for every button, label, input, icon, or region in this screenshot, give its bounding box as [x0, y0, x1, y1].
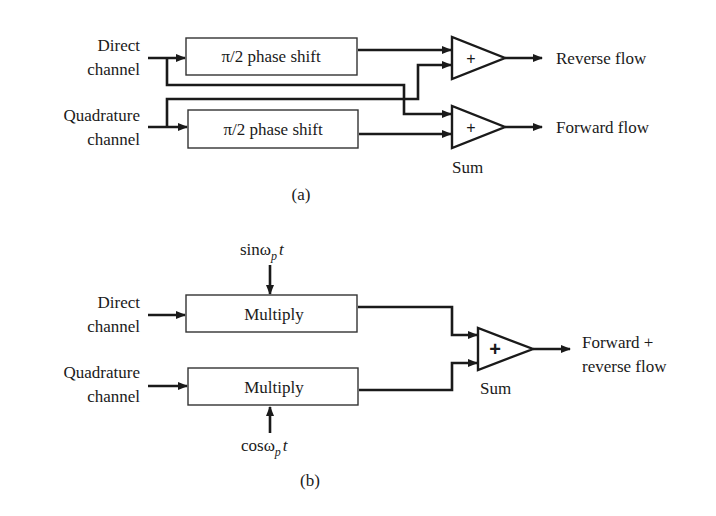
- direct-channel-label-line2: channel: [87, 60, 140, 79]
- reverse-summer-plus-sign: +: [466, 50, 475, 67]
- direct-channel-label-b-line1: Direct: [98, 293, 141, 312]
- direct-channel-label-b-line2: channel: [87, 317, 140, 336]
- reverse-flow-label: Reverse flow: [556, 49, 647, 68]
- sum-label-a: Sum: [452, 158, 483, 177]
- sum-label-b: Sum: [480, 379, 511, 398]
- diagram-a: Direct channel Quadrature channel π/2 ph…: [64, 36, 650, 204]
- phase-shift-block-bottom-label: π/2 phase shift: [223, 120, 323, 139]
- quadrature-channel-label-b-line1: Quadrature: [64, 363, 140, 382]
- output-label-line2: reverse flow: [582, 357, 667, 376]
- output-label-line1: Forward +: [582, 333, 653, 352]
- cos-reference-label: cosωpt: [241, 436, 289, 459]
- forward-summer-plus-sign: +: [466, 119, 475, 136]
- caption-a: (a): [292, 185, 311, 204]
- forward-flow-label: Forward flow: [556, 118, 650, 137]
- diagram-b: sinωpt Direct channel Quadrature channel…: [64, 240, 668, 490]
- quadrature-channel-label-line1: Quadrature: [64, 106, 140, 125]
- reverse-flow-summer: [452, 37, 505, 79]
- multiply-bottom-output-wire: [359, 363, 477, 390]
- forward-flow-summer: [452, 106, 505, 148]
- quadrature-channel-label-b-line2: channel: [87, 387, 140, 406]
- combined-summer-plus-sign: +: [489, 338, 501, 360]
- phase-shift-block-top-label: π/2 phase shift: [221, 47, 321, 66]
- multiply-top-output-wire: [358, 307, 477, 335]
- caption-b: (b): [300, 471, 320, 490]
- sin-reference-label: sinωpt: [240, 240, 285, 263]
- multiply-block-bottom-label: Multiply: [244, 378, 304, 397]
- direct-channel-label-line1: Direct: [98, 36, 141, 55]
- flow-diagram: Direct channel Quadrature channel π/2 ph…: [0, 0, 716, 516]
- multiply-block-top-label: Multiply: [244, 305, 304, 324]
- combined-flow-summer: [478, 328, 533, 370]
- quadrature-channel-label-line2: channel: [87, 130, 140, 149]
